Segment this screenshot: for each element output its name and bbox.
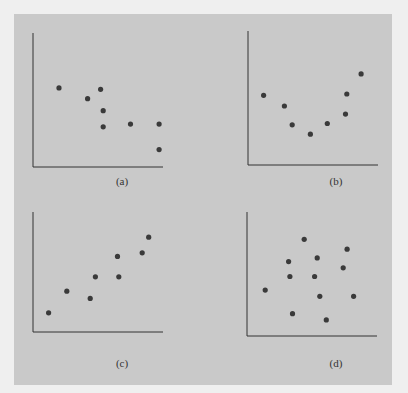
data-point: [351, 294, 356, 299]
panel-label-a: (a): [62, 175, 182, 187]
data-point: [64, 289, 69, 294]
data-point: [116, 274, 121, 279]
axis-lines: [33, 33, 163, 167]
scatter-panel-b: (b): [246, 30, 408, 210]
data-point: [290, 122, 295, 127]
axis-lines: [33, 212, 163, 332]
data-point: [146, 235, 151, 240]
axis-lines: [247, 212, 377, 336]
data-point: [344, 91, 349, 96]
data-point: [140, 250, 145, 255]
data-point: [325, 121, 330, 126]
axis-lines: [248, 31, 378, 165]
data-point: [263, 288, 268, 293]
panel-label-b: (b): [276, 175, 396, 187]
data-point: [101, 124, 106, 129]
data-point: [98, 87, 103, 92]
scatter-panel-a: (a): [30, 30, 210, 210]
data-point: [359, 71, 364, 76]
data-point: [343, 112, 348, 117]
data-point: [46, 310, 51, 315]
data-point: [56, 85, 61, 90]
data-point: [101, 108, 106, 113]
scatter-panel-c: (c): [30, 212, 210, 392]
data-point: [308, 132, 313, 137]
data-point: [286, 259, 291, 264]
data-point: [290, 311, 295, 316]
data-point: [88, 296, 93, 301]
scatter-panel-d: (d): [246, 212, 408, 392]
data-point: [85, 96, 90, 101]
data-point: [261, 93, 266, 98]
data-point: [157, 122, 162, 127]
data-point: [317, 294, 322, 299]
data-point: [315, 255, 320, 260]
data-point: [282, 103, 287, 108]
data-point: [115, 254, 120, 259]
data-point: [157, 147, 162, 152]
data-point: [312, 274, 317, 279]
data-point: [345, 247, 350, 252]
data-point: [287, 274, 292, 279]
panel-label-d: (d): [276, 357, 396, 369]
data-point: [93, 274, 98, 279]
data-point: [128, 122, 133, 127]
data-point: [324, 317, 329, 322]
data-point: [302, 237, 307, 242]
data-point: [341, 265, 346, 270]
panel-label-c: (c): [62, 357, 182, 369]
